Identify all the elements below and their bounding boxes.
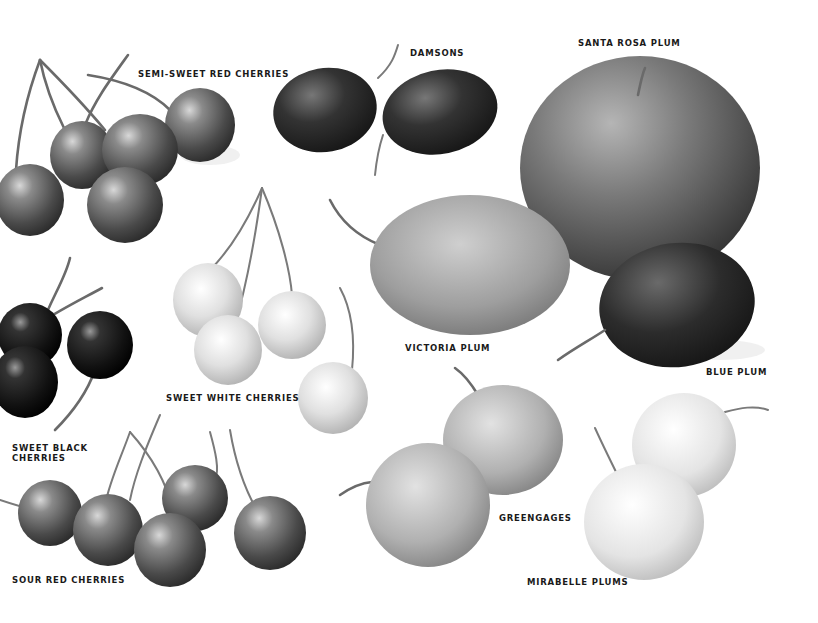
victoria-plum	[330, 195, 570, 335]
greengages	[340, 368, 563, 567]
mirabelle-plums	[584, 393, 768, 580]
label-blue-plum: BLUE PLUM	[706, 367, 767, 377]
sour-red-cherries	[0, 415, 306, 587]
label-mirabelle-plums: MIRABELLE PLUMS	[527, 577, 628, 587]
label-greengages: GREENGAGES	[499, 513, 572, 523]
fruit-illustration	[0, 0, 818, 623]
damsons	[266, 45, 505, 175]
label-victoria-plum: VICTORIA PLUM	[405, 343, 490, 353]
label-sweet-white-cherries: SWEET WHITE CHERRIES	[166, 393, 299, 403]
label-sweet-black-cherries: SWEET BLACK CHERRIES	[12, 443, 88, 463]
label-santa-rosa-plum: SANTA ROSA PLUM	[578, 38, 681, 48]
sweet-black-cherries	[0, 258, 133, 430]
label-damsons: DAMSONS	[410, 48, 464, 58]
semi-sweet-red-cherries	[0, 55, 240, 243]
label-semi-sweet-red-cherries: SEMI-SWEET RED CHERRIES	[138, 69, 289, 79]
label-sour-red-cherries: SOUR RED CHERRIES	[12, 575, 125, 585]
